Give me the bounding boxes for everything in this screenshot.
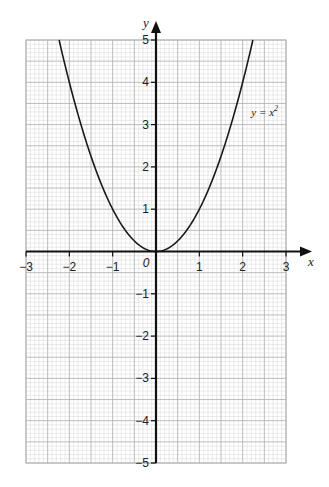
x-tick-label: 3	[283, 260, 290, 274]
x-tick-label: 2	[239, 260, 246, 274]
y-tick-label: 3	[142, 118, 149, 132]
curve-label-superscript: 2	[274, 104, 278, 113]
y-tick-label: 2	[142, 160, 149, 174]
y-tick-label: −3	[135, 371, 149, 385]
x-tick-label: 1	[196, 260, 203, 274]
y-tick-label: 5	[142, 33, 149, 47]
x-tick-label: −2	[62, 260, 76, 274]
x-axis-ticks: −3−2−1123	[19, 252, 290, 274]
curve-label-main: y = x	[250, 106, 274, 118]
curve-label: y = x2	[250, 104, 278, 118]
y-tick-label: −5	[135, 456, 149, 470]
y-tick-label: 1	[142, 202, 149, 216]
x-tick-label: −3	[19, 260, 33, 274]
graph-y-equals-x-squared: −3−2−1123 −5−4−3−2−112345 x y 0 y = x2	[0, 0, 329, 487]
y-tick-label: −4	[135, 414, 149, 428]
x-tick-label: −1	[106, 260, 120, 274]
origin-label: 0	[143, 256, 150, 270]
y-axis-arrow-icon	[151, 21, 161, 33]
y-tick-label: −1	[135, 287, 149, 301]
y-axis-label: y	[141, 15, 149, 30]
y-tick-label: −2	[135, 329, 149, 343]
x-axis-label: x	[307, 254, 314, 269]
y-tick-label: 4	[142, 75, 149, 89]
